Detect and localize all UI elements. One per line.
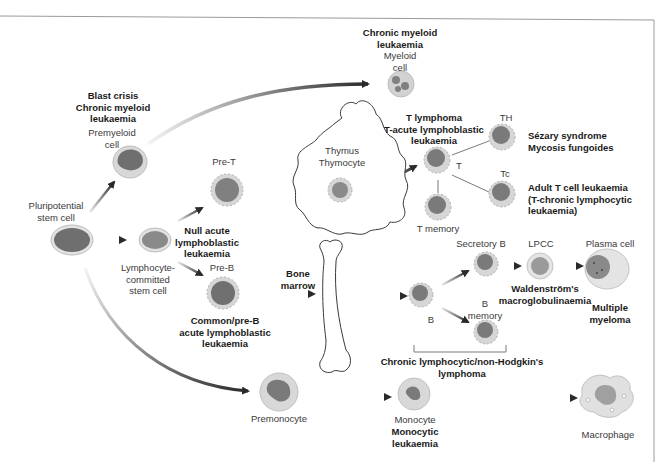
- label-pluripotential: Pluripotential stem cell: [29, 200, 84, 223]
- disease-t-all: T lymphoma T-acute lymphoblastic leukaem…: [384, 112, 484, 147]
- link-t-to-tc: [452, 175, 489, 192]
- label-lpcc: LPCC: [528, 238, 553, 250]
- disease-null-all: Null acute lymphoblastic leukaemia: [175, 225, 239, 260]
- disease-pre-b-all: Common/pre-B acute lymphoblastic leukaem…: [179, 315, 270, 350]
- label-premyeloid: Premyeloid cell: [88, 127, 136, 150]
- cell-premonocyte: [260, 373, 298, 411]
- label-pre-b: Pre-B: [210, 262, 234, 274]
- cell-pre-b: [207, 277, 239, 309]
- label-plasma-cell: Plasma cell: [586, 238, 635, 250]
- cell-b-memory: [474, 320, 498, 344]
- label-lymphocyte-committed: Lymphocyte- committed stem cell: [121, 262, 175, 297]
- cell-secretory-b: [474, 252, 498, 276]
- disease-waldenstrom: Waldenström's macroglobulinaemia: [499, 283, 591, 306]
- label-tc: Tc: [500, 168, 510, 180]
- b-group-bracket: [414, 345, 506, 352]
- label-premonocyte: Premonocyte: [251, 413, 307, 425]
- cell-lymphocyte-committed: [139, 228, 171, 252]
- arrow-b-to-bmemory: [442, 308, 468, 322]
- diagram-canvas: [0, 0, 672, 469]
- cell-b: [409, 283, 433, 307]
- disease-monocytic: Monocytic leukaemia: [392, 426, 439, 449]
- cell-pluripotential: [51, 225, 93, 255]
- label-myeloid: Myeloid cell: [384, 50, 417, 73]
- cell-t-memory: [425, 194, 451, 220]
- cell-lpcc: [527, 253, 553, 279]
- label-th: TH: [500, 112, 513, 124]
- disease-multiple-myeloma: Multiple myeloma: [589, 302, 630, 325]
- label-b-memory: B memory: [468, 298, 502, 321]
- disease-sezary: Sézary syndrome Mycosis fungoides: [528, 130, 614, 153]
- label-monocyte: Monocyte: [394, 414, 435, 426]
- cell-monocyte: [398, 378, 430, 410]
- label-macrophage: Macrophage: [582, 429, 635, 441]
- label-secretory-b: Secretory B: [456, 238, 506, 250]
- disease-blast-crisis: Blast crisis Chronic myeloid leukaemia: [76, 90, 150, 125]
- cell-plasma: [585, 249, 629, 289]
- arrow-b-to-secretory: [442, 271, 468, 285]
- arrow-stem-to-premyeloid: [90, 182, 114, 212]
- label-b: B: [428, 314, 434, 326]
- cell-macrophage: [580, 375, 633, 417]
- label-t: T: [456, 160, 462, 172]
- label-bone-marrow: Bone marrow: [281, 268, 315, 291]
- cell-thymocyte: [328, 178, 352, 202]
- cell-premyeloid: [113, 146, 147, 178]
- cell-tc: [489, 181, 515, 207]
- cell-pre-t: [211, 174, 243, 206]
- arrow-lymph-to-preb: [178, 262, 202, 275]
- cell-th: [489, 124, 515, 150]
- label-thymus: Thymus Thymocyte: [319, 145, 365, 168]
- disease-adult-t: Adult T cell leukaemia (T-chronic lympho…: [528, 182, 632, 217]
- arrow-lymph-to-pret: [178, 208, 202, 221]
- label-pre-t: Pre-T: [212, 156, 236, 168]
- cell-t: [424, 147, 450, 173]
- figure-frame: [0, 16, 654, 462]
- cell-myeloid: [388, 71, 414, 97]
- disease-cll-nhl: Chronic lymphocytic/non-Hodgkin's lympho…: [381, 356, 544, 379]
- label-t-memory: T memory: [417, 223, 460, 235]
- bone-illustration: [320, 240, 351, 373]
- disease-chronic-myeloid: Chronic myeloid leukaemia: [363, 27, 437, 50]
